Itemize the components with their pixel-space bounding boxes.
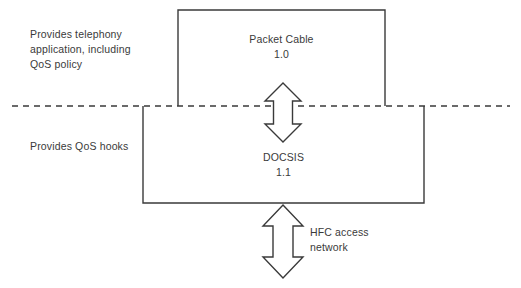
- packetcable-docsis-bidirectional-arrow-icon: [265, 83, 301, 142]
- hfc-access-network-label: HFC access network: [310, 225, 430, 255]
- docsis-box-label: DOCSIS 1.1: [143, 150, 424, 180]
- hfc-access-network-bidirectional-arrow-icon: [263, 205, 303, 278]
- diagram-canvas: Provides telephony application, includin…: [0, 0, 521, 288]
- upper-left-annotation: Provides telephony application, includin…: [30, 27, 180, 72]
- packet-cable-box-label: Packet Cable 1.0: [178, 32, 385, 62]
